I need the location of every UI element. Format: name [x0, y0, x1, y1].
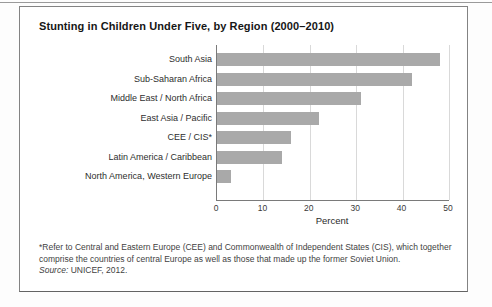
- category-label: Middle East / North Africa: [20, 93, 212, 104]
- category-label: Sub-Saharan Africa: [20, 74, 212, 85]
- plot-area: [216, 45, 449, 201]
- x-tick-label: 40: [390, 203, 414, 213]
- bar: [217, 112, 319, 125]
- bar: [217, 92, 361, 105]
- bar: [217, 53, 440, 66]
- x-tick-label: 20: [297, 203, 321, 213]
- source-line: Source: UNICEF, 2012.: [39, 265, 339, 275]
- bar: [217, 151, 282, 164]
- category-labels: South AsiaSub-Saharan AfricaMiddle East …: [20, 45, 212, 200]
- bar: [217, 170, 231, 183]
- source-label: Source:: [39, 265, 68, 275]
- x-axis-label: Percent: [216, 215, 448, 226]
- figure-page: Stunting in Children Under Five, by Regi…: [0, 0, 492, 307]
- category-label: CEE / CIS*: [20, 132, 212, 143]
- figure-box: Stunting in Children Under Five, by Regi…: [19, 6, 468, 292]
- x-axis-ticks: 01020304050: [216, 203, 448, 214]
- top-rule: [0, 2, 492, 3]
- category-label: North America, Western Europe: [20, 171, 212, 182]
- x-tick-label: 10: [250, 203, 274, 213]
- gridline-40: [403, 45, 404, 200]
- footnote: *Refer to Central and Eastern Europe (CE…: [39, 241, 453, 265]
- category-label: South Asia: [20, 54, 212, 65]
- x-tick-label: 30: [343, 203, 367, 213]
- category-label: Latin America / Caribbean: [20, 152, 212, 163]
- bar: [217, 131, 291, 144]
- chart-title: Stunting in Children Under Five, by Regi…: [39, 20, 449, 32]
- category-label: East Asia / Pacific: [20, 113, 212, 124]
- gridline-30: [356, 45, 357, 200]
- bar: [217, 73, 412, 86]
- gridline-50: [449, 45, 450, 200]
- x-tick-label: 50: [436, 203, 460, 213]
- x-tick-label: 0: [204, 203, 228, 213]
- source-text: UNICEF, 2012.: [68, 265, 127, 275]
